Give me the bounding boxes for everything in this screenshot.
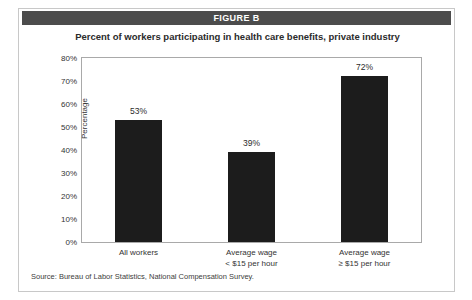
bar: 72% [341,76,388,242]
x-axis-tick-label-line: Average wage [300,247,430,258]
bar: 39% [228,152,275,242]
y-axis-tick-label: 30% [61,169,77,178]
bar-value-label: 53% [130,106,147,116]
figure-container: FIGURE B Percent of workers participatin… [18,8,455,292]
figure-header-bar: FIGURE B [22,11,451,25]
y-axis-tick-label: 60% [61,100,77,109]
source-note: Source: Bureau of Labor Statistics, Nati… [31,272,254,281]
bar: 53% [115,120,162,242]
y-axis-tick-label: 10% [61,215,77,224]
y-axis-tick-label: 20% [61,192,77,201]
x-axis-tick-label: All workers [74,247,204,258]
x-axis-tick-label: Average wage≥ $15 per hour [300,247,430,269]
x-axis-tick-label-line: All workers [74,247,204,258]
chart-plot-area: Percentage 80%70%60%50%40%30%20%10%0% 53… [81,57,422,243]
figure-header-label: FIGURE B [213,14,259,23]
bar-value-label: 39% [243,138,260,148]
y-axis-tick-label: 50% [61,123,77,132]
chart-title: Percent of workers participating in heal… [19,31,456,42]
x-axis-tick-label-line: < $15 per hour [187,258,317,269]
x-axis-tick-label: Average wage< $15 per hour [187,247,317,269]
y-axis-tick-label: 40% [61,146,77,155]
y-axis-tick-label: 70% [61,77,77,86]
y-axis-tick-label: 80% [61,54,77,63]
y-axis-title: Percentage [80,74,89,164]
x-axis-tick-label-line: Average wage [187,247,317,258]
x-axis-tick-label-line: ≥ $15 per hour [300,258,430,269]
y-axis-tick-label: 0% [65,238,77,247]
bar-value-label: 72% [356,62,373,72]
